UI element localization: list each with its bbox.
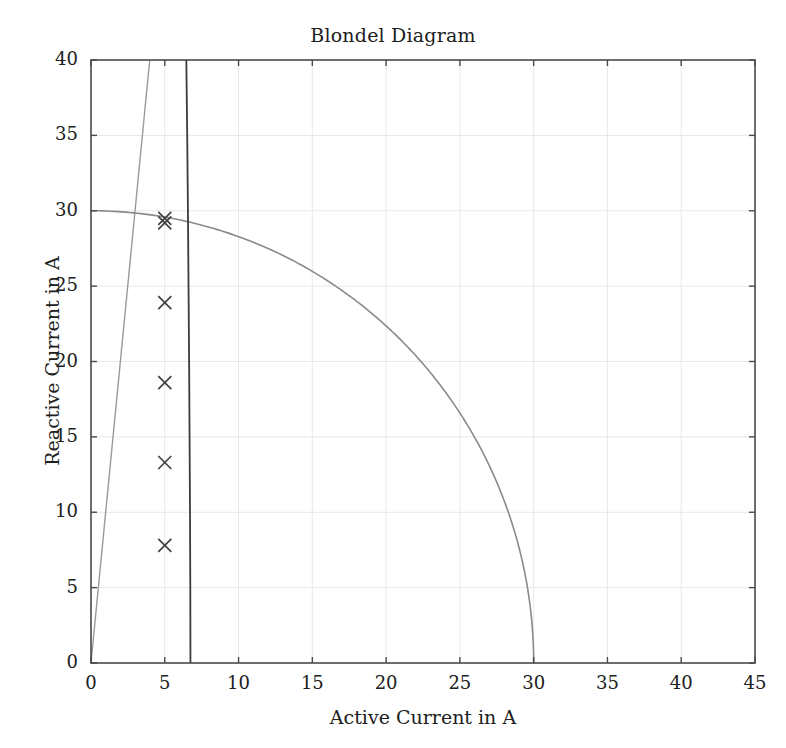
x-tick-label-3: 15: [292, 672, 332, 693]
x-tick-label-1: 5: [145, 672, 185, 693]
x-tick-label-0: 0: [71, 672, 111, 693]
x-tick-label-9: 45: [735, 672, 775, 693]
y-tick-label-2: 10: [32, 500, 78, 521]
x-tick-label-8: 40: [661, 672, 701, 693]
x-tick-label-4: 20: [366, 672, 406, 693]
blondel-diagram-figure: Blondel Diagram Active Current in A Reac…: [0, 0, 786, 748]
y-tick-label-0: 0: [32, 651, 78, 672]
x-axis-label: Active Current in A: [91, 706, 755, 728]
x-tick-label-5: 25: [440, 672, 480, 693]
y-tick-label-6: 30: [32, 199, 78, 220]
y-tick-label-7: 35: [32, 123, 78, 144]
y-tick-label-3: 15: [32, 425, 78, 446]
y-tick-label-1: 5: [32, 576, 78, 597]
x-tick-label-2: 10: [219, 672, 259, 693]
page-title: Blondel Diagram: [0, 24, 786, 46]
y-tick-label-4: 20: [32, 350, 78, 371]
plot-canvas: [0, 0, 786, 748]
x-tick-label-6: 30: [514, 672, 554, 693]
x-tick-label-7: 35: [587, 672, 627, 693]
y-tick-label-8: 40: [32, 48, 78, 69]
y-tick-label-5: 25: [32, 274, 78, 295]
